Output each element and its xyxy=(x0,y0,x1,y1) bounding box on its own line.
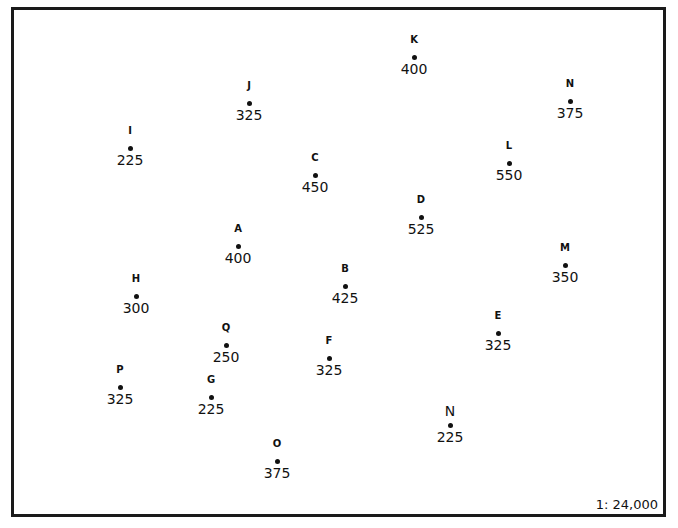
point-dot-icon xyxy=(412,55,417,60)
point-label: A xyxy=(234,224,242,234)
point-dot-icon xyxy=(419,215,424,220)
point-label: D xyxy=(417,195,425,205)
point-dot-icon xyxy=(343,284,348,289)
point-dot-icon xyxy=(563,263,568,268)
point-dot-icon xyxy=(224,343,229,348)
point-label: E xyxy=(495,311,502,321)
point-label: F xyxy=(326,336,333,346)
point-label: P xyxy=(116,365,123,375)
point-label: Q xyxy=(222,323,231,333)
point-dot-icon xyxy=(327,356,332,361)
point-dot-icon xyxy=(568,99,573,104)
point-elevation-value: 400 xyxy=(401,62,428,76)
point-label: L xyxy=(506,141,512,151)
point-label: I xyxy=(128,126,132,136)
point-label: C xyxy=(311,153,318,163)
point-elevation-value: 350 xyxy=(552,270,579,284)
point-dot-icon xyxy=(236,244,241,249)
point-dot-icon xyxy=(496,331,501,336)
point-elevation-value: 400 xyxy=(225,251,252,265)
point-elevation-value: 250 xyxy=(213,350,240,364)
point-dot-icon xyxy=(118,385,123,390)
point-elevation-value: 325 xyxy=(485,338,512,352)
point-label: J xyxy=(247,81,251,91)
point-label: M xyxy=(560,243,570,253)
point-label: B xyxy=(341,264,349,274)
point-elevation-value: 225 xyxy=(117,153,144,167)
point-elevation-value: 325 xyxy=(316,363,343,377)
point-elevation-value: 300 xyxy=(123,301,150,315)
point-dot-icon xyxy=(209,395,214,400)
point-label: G xyxy=(207,375,215,385)
point-elevation-value: 225 xyxy=(437,430,464,444)
point-dot-icon xyxy=(275,459,280,464)
point-elevation-value: 375 xyxy=(557,106,584,120)
point-dot-icon xyxy=(448,423,453,428)
map-scale: 1: 24,000 xyxy=(596,497,658,512)
point-elevation-value: 525 xyxy=(408,222,435,236)
point-dot-icon xyxy=(134,294,139,299)
point-label: K xyxy=(410,35,418,45)
point-label: N xyxy=(445,404,455,418)
point-elevation-value: 425 xyxy=(332,291,359,305)
point-dot-icon xyxy=(128,146,133,151)
point-dot-icon xyxy=(507,161,512,166)
point-label: O xyxy=(273,439,282,449)
point-dot-icon xyxy=(247,101,252,106)
point-elevation-value: 375 xyxy=(264,466,291,480)
point-elevation-value: 550 xyxy=(496,168,523,182)
point-elevation-value: 225 xyxy=(198,402,225,416)
point-label: N xyxy=(566,79,574,89)
point-elevation-value: 325 xyxy=(236,108,263,122)
point-elevation-value: 450 xyxy=(302,180,329,194)
point-dot-icon xyxy=(313,173,318,178)
point-label: H xyxy=(132,274,140,284)
point-elevation-value: 325 xyxy=(107,392,134,406)
